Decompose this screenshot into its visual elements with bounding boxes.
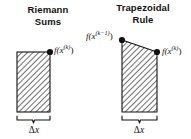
label-f-xk-minus-1: f(x(k−1)) <box>86 32 113 41</box>
delta-x-bracket <box>17 116 50 123</box>
delta-x-label: Δx <box>122 125 156 135</box>
label-f-xk: f(x(k)) <box>162 47 181 56</box>
panel-riemann-sums: Riemann Sums f(x(k)) Δx <box>0 0 96 139</box>
point-marker-f-xk <box>154 49 160 55</box>
riemann-rectangle-graphic <box>0 0 96 139</box>
numerical-integration-figure: Riemann Sums f(x(k)) Δx Trapezoidal Rule <box>0 0 191 139</box>
trapezoid-graphic <box>95 0 191 139</box>
label-f-xk: f(x(k)) <box>54 46 73 55</box>
trapezoid-area <box>122 40 157 112</box>
panel-trapezoidal-rule: Trapezoidal Rule f(x(k−1)) f(x(k)) Δx <box>95 0 191 139</box>
delta-x-label: Δx <box>17 125 51 135</box>
riemann-rectangle-area <box>17 52 50 112</box>
delta-x-bracket <box>122 116 157 123</box>
point-marker-f-xk <box>47 49 53 55</box>
point-marker-f-xk-minus-1 <box>119 37 125 43</box>
